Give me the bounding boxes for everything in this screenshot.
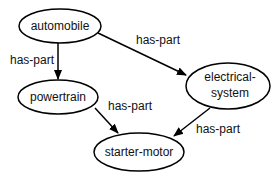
- edge-label: has-part: [10, 53, 55, 67]
- node-starter-motor: starter-motor: [94, 133, 184, 171]
- edge-automobile-powertrain: has-part: [10, 43, 58, 79]
- node-label: starter-motor: [105, 145, 174, 159]
- edge-label: has-part: [108, 99, 153, 113]
- edge-automobile-electrical-system: has-part: [98, 33, 186, 75]
- node-powertrain: powertrain: [18, 80, 98, 114]
- node-automobile: automobile: [19, 9, 101, 43]
- edge-label: has-part: [196, 122, 241, 136]
- diagram-canvas: has-part has-part has-part has-part auto…: [0, 0, 277, 179]
- node-label: automobile: [31, 19, 90, 33]
- node-label-line2: system: [211, 86, 249, 100]
- node-label-line1: electrical-: [204, 70, 255, 84]
- edge-electrical-system-starter-motor: has-part: [174, 108, 241, 136]
- node-electrical-system: electrical- system: [186, 63, 270, 109]
- edge-label: has-part: [136, 33, 181, 47]
- edge-powertrain-starter-motor: has-part: [95, 99, 153, 133]
- node-label: powertrain: [30, 90, 86, 104]
